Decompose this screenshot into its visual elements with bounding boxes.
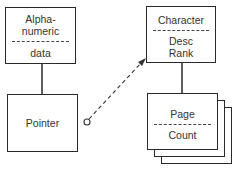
alphanumeric-sub-label: data: [6, 47, 75, 59]
pointer-origin-circle-icon: [84, 119, 90, 125]
character-desc-label: Desc: [147, 35, 215, 47]
character-rank-label: Rank: [147, 47, 215, 59]
alphanumeric-label-line1: Alpha-: [6, 13, 75, 25]
alphanumeric-label-line2: numeric: [6, 25, 75, 37]
divider: [12, 41, 69, 42]
page-node: Page Count: [147, 93, 218, 150]
page-label: Page: [148, 108, 217, 120]
pointer-to-character-dashed-line: [89, 62, 142, 119]
character-label: Character: [147, 14, 215, 26]
count-label: Count: [148, 129, 217, 141]
divider: [153, 30, 209, 31]
character-node: Character Desc Rank: [146, 6, 216, 63]
divider: [154, 124, 211, 125]
pointer-node: Pointer: [7, 94, 78, 152]
alphanumeric-node: Alpha- numeric data: [5, 7, 76, 64]
pointer-label: Pointer: [8, 117, 77, 129]
